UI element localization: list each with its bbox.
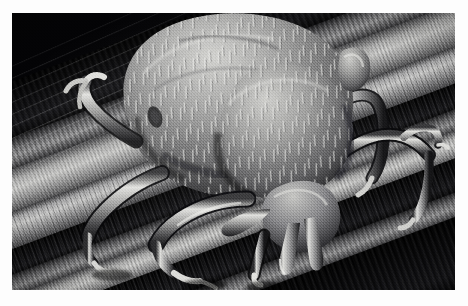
leg-left-mid	[87, 173, 162, 271]
photo-frame	[0, 0, 468, 306]
leg-left-hind	[156, 199, 248, 288]
thorax	[217, 64, 352, 199]
micrograph-plate	[12, 13, 455, 290]
dorsal-tubercle	[338, 47, 370, 91]
leg-right-mid	[342, 127, 448, 228]
arthropod-subject	[12, 13, 455, 290]
tarsal-claw	[254, 235, 264, 285]
